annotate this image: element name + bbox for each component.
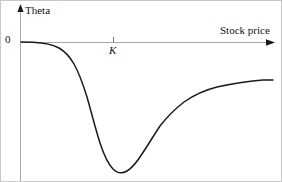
x-axis-label: Stock price	[220, 25, 270, 36]
strike-tick-label: K	[109, 45, 116, 56]
theta-stock-price-chart: Theta Stock price 0 K	[0, 0, 282, 182]
origin-tick-label: 0	[5, 34, 11, 45]
theta-curve	[21, 42, 273, 173]
x-axis-arrowhead-icon	[266, 39, 275, 46]
y-axis-label: Theta	[25, 5, 50, 16]
y-axis-arrowhead-icon	[17, 4, 23, 12]
